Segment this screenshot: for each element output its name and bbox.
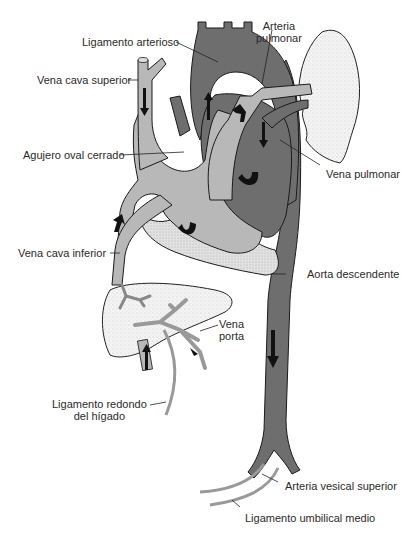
label-vena-porta: Vena porta xyxy=(219,318,244,342)
label-ligamento-redondo: Ligamento redondo del hígado xyxy=(52,398,147,422)
label-arteria-vesical: Arteria vesical superior xyxy=(285,480,397,492)
label-vena-porta-line1: Vena xyxy=(219,318,244,330)
label-vena-porta-line2: porta xyxy=(219,330,244,342)
label-arteria-pulmonar-line1: Arteria xyxy=(256,20,302,32)
label-arteria-pulmonar: Arteria pulmonar xyxy=(256,20,302,44)
label-vena-cava-superior: Vena cava superior xyxy=(37,74,131,86)
label-ligamento-arterioso: Ligamento arterioso xyxy=(82,36,179,48)
label-ligamento-redondo-line1: Ligamento redondo xyxy=(52,398,147,410)
label-agujero-oval: Agujero oval cerrado xyxy=(23,149,125,161)
umbilical-ligament-right xyxy=(210,468,278,505)
label-ligamento-redondo-line2: del hígado xyxy=(52,410,147,422)
lung xyxy=(299,30,359,163)
label-ligamento-umbilical: Ligamento umbilical medio xyxy=(245,512,375,524)
brachiocephalic-stub xyxy=(170,96,190,136)
label-vena-pulmonar: Vena pulmonar xyxy=(326,168,400,180)
label-vena-cava-inferior: Vena cava inferior xyxy=(18,247,106,259)
liver xyxy=(102,283,232,357)
label-aorta-descendente: Aorta descendente xyxy=(307,268,399,280)
label-arteria-pulmonar-line2: pulmonar xyxy=(256,32,302,44)
